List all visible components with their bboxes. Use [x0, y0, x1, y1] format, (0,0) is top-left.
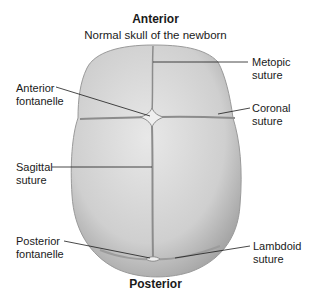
label-metopic-suture: Metopic suture [252, 56, 291, 82]
label-anterior-fontanelle: Anterior fontanelle [16, 82, 64, 108]
label-lambdoid-suture-line2: suture [253, 253, 301, 266]
label-posterior-fontanelle-line1: Posterior [16, 235, 64, 248]
posterior-label: Posterior [0, 277, 311, 291]
label-sagittal-suture-line2: suture [16, 174, 53, 187]
label-lambdoid-suture: Lambdoid suture [253, 240, 301, 266]
sagittal-suture [152, 126, 153, 258]
label-sagittal-suture: Sagittal suture [16, 161, 53, 187]
label-anterior-fontanelle-line2: fontanelle [16, 95, 64, 108]
label-posterior-fontanelle: Posterior fontanelle [16, 235, 64, 261]
skull-outline [71, 45, 241, 277]
label-metopic-suture-line2: suture [252, 69, 291, 82]
label-coronal-suture-line2: suture [252, 115, 291, 128]
label-coronal-suture-line1: Coronal [252, 102, 291, 115]
label-metopic-suture-line1: Metopic [252, 56, 291, 69]
label-coronal-suture: Coronal suture [252, 102, 291, 128]
metopic-suture [152, 46, 153, 113]
label-posterior-fontanelle-line2: fontanelle [16, 248, 64, 261]
label-sagittal-suture-line1: Sagittal [16, 161, 53, 174]
label-anterior-fontanelle-line1: Anterior [16, 82, 64, 95]
label-lambdoid-suture-line1: Lambdoid [253, 240, 301, 253]
